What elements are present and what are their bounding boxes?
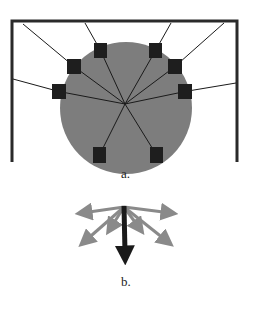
- anchor-line: [175, 23, 224, 67]
- panel-a-label: a.: [121, 166, 130, 182]
- black-square: [94, 43, 107, 58]
- black-square: [93, 147, 106, 163]
- anchor-line: [185, 83, 236, 92]
- panel-a-diagram: [12, 21, 237, 174]
- black-square: [52, 84, 66, 99]
- black-arrow: [124, 206, 125, 253]
- panel-b-force-arrows: [82, 206, 171, 253]
- black-square: [67, 59, 81, 74]
- black-square: [150, 147, 163, 163]
- figure-canvas: [0, 0, 254, 312]
- panel-b-label: b.: [121, 274, 131, 290]
- black-square: [178, 84, 192, 99]
- black-square: [168, 59, 182, 74]
- black-square: [149, 43, 162, 58]
- anchor-line: [23, 24, 74, 67]
